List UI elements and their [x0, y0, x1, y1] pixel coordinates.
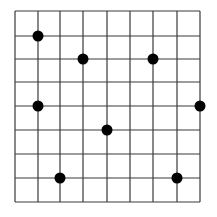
grid-dot — [33, 31, 44, 42]
grid-dot — [55, 173, 66, 184]
dot-grid-diagram — [0, 0, 217, 217]
grid-dots — [33, 31, 206, 184]
grid-dot — [148, 54, 159, 65]
grid-dot — [33, 101, 44, 112]
grid-dot — [172, 173, 183, 184]
grid-dot — [78, 54, 89, 65]
grid-dot — [195, 101, 206, 112]
grid-dot — [102, 125, 113, 136]
